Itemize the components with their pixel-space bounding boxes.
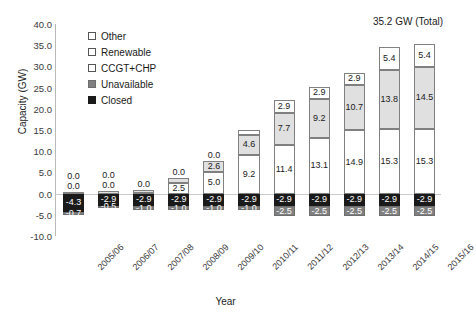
bar-segment-renewable[interactable]: 14.5 — [414, 67, 435, 128]
legend-swatch-icon — [88, 48, 96, 56]
bar-segment-unavailable[interactable]: -2.5 — [414, 206, 435, 217]
bar-segment-value: -0.7 — [66, 209, 82, 218]
bar-segment-renewable[interactable]: 13.8 — [379, 70, 400, 129]
bar-segment-value: -0.5 — [101, 202, 117, 211]
bar-segment-ccgt-chp[interactable]: 2.5 — [168, 183, 189, 194]
bar-segment-value: -2.5 — [276, 207, 292, 216]
bar-segment-ccgt-chp[interactable]: 9.2 — [238, 155, 259, 194]
bar-segment-value-outside: 0.0 — [63, 171, 84, 181]
bar-segment-other[interactable]: 5.4 — [379, 47, 400, 70]
bar-group[interactable]: 5.02.60.0-2.9-1.0 — [203, 24, 224, 236]
y-tick-label: -10.0 — [18, 231, 52, 242]
x-tick-label: 2006/07 — [130, 242, 160, 272]
bar-segment-unavailable[interactable]: -2.5 — [274, 206, 295, 217]
bar-segment-unavailable[interactable]: -2.5 — [379, 206, 400, 217]
bar-segment-unavailable[interactable]: -0.5 — [98, 206, 119, 208]
y-tick-label: 15.0 — [18, 125, 52, 136]
bar-group[interactable]: 15.313.85.4-2.9-2.5 — [379, 24, 400, 236]
bar-segment-value: 9.2 — [243, 170, 256, 179]
bar-segment-unavailable[interactable]: -1.0 — [133, 206, 154, 210]
bar-segment-value: 10.7 — [345, 103, 363, 112]
x-tick-label: 2008/09 — [200, 242, 230, 272]
legend-swatch-icon — [88, 80, 96, 88]
bar-segment-value: -2.9 — [347, 195, 363, 204]
legend-item-closed[interactable]: Closed — [88, 92, 156, 108]
legend-swatch-icon — [88, 64, 96, 72]
bar-segment-value: -2.5 — [382, 207, 398, 216]
bar-segment-unavailable[interactable]: -1.0 — [203, 206, 224, 210]
bar-segment-renewable[interactable]: 9.2 — [309, 99, 330, 138]
y-tick-label: 10.0 — [18, 146, 52, 157]
bar-segment-value: 14.5 — [416, 93, 434, 102]
bar-segment-value: -1.0 — [171, 204, 187, 213]
bar-segment-other[interactable]: 2.9 — [309, 87, 330, 99]
bar-segment-unavailable[interactable]: -0.7 — [63, 212, 84, 215]
bar-segment-value: -2.5 — [417, 207, 433, 216]
bar-segment-other[interactable]: 5.4 — [414, 44, 435, 67]
bar-segment-value: 5.4 — [418, 51, 431, 60]
bar-segment-value: 5.0 — [208, 178, 221, 187]
bar-segment-value: -2.9 — [417, 195, 433, 204]
bar-segment-value: 2.9 — [278, 102, 291, 111]
bar-group[interactable]: 0.00.0-4.3-0.7 — [63, 24, 84, 236]
bar-segment-ccgt-chp[interactable]: 5.0 — [203, 172, 224, 193]
bar-segment-ccgt-chp[interactable]: 11.4 — [274, 145, 295, 193]
bar-segment-closed[interactable]: -2.9 — [344, 194, 365, 206]
bar-segment-closed[interactable]: -2.9 — [274, 194, 295, 206]
bar-segment-value: -2.9 — [311, 195, 327, 204]
bar-segment-value: 9.2 — [313, 114, 326, 123]
bar-segment-other[interactable]: 2.9 — [344, 73, 365, 85]
bar-segment-other[interactable] — [238, 130, 259, 135]
bar-segment-renewable[interactable]: 10.7 — [344, 85, 365, 130]
bar-segment-value: 15.3 — [381, 157, 399, 166]
x-tick-label: 2013/14 — [376, 242, 406, 272]
bar-segment-value: 13.8 — [381, 95, 399, 104]
legend-item-renewable[interactable]: Renewable — [88, 44, 156, 60]
bar-segment-value: 14.9 — [345, 158, 363, 167]
bar-segment-ccgt-chp[interactable]: 15.3 — [414, 129, 435, 194]
bar-segment-closed[interactable]: -2.9 — [414, 194, 435, 206]
bar-group[interactable]: 2.50.0-2.9-1.0 — [168, 24, 189, 236]
legend-item-label: Other — [101, 31, 126, 42]
bar-segment-unavailable[interactable]: -2.5 — [344, 206, 365, 217]
bar-segment-renewable[interactable]: 7.7 — [274, 113, 295, 146]
bar-segment-other[interactable]: 2.9 — [274, 100, 295, 112]
bar-segment-ccgt-chp[interactable]: 15.3 — [379, 129, 400, 194]
bar-segment-closed[interactable]: -2.9 — [309, 194, 330, 206]
x-tick-label: 2005/06 — [95, 242, 125, 272]
bar-segment-unavailable[interactable]: -1.0 — [168, 206, 189, 210]
legend-item-other[interactable]: Other — [88, 28, 156, 44]
bar-segment-value: -2.9 — [382, 195, 398, 204]
legend-item-unavailable[interactable]: Unavailable — [88, 76, 156, 92]
bar-segment-renewable[interactable] — [168, 178, 189, 183]
legend-item-label: Unavailable — [101, 79, 153, 90]
x-tick-label: 2009/10 — [235, 242, 265, 272]
bar-segment-closed[interactable]: -2.9 — [379, 194, 400, 206]
y-tick-label: 5.0 — [18, 167, 52, 178]
bar-segment-renewable[interactable]: 2.6 — [203, 161, 224, 172]
y-tick-label: 20.0 — [18, 103, 52, 114]
y-tick-label: 30.0 — [18, 61, 52, 72]
x-tick-label: 2015/16 — [446, 242, 476, 272]
y-tick-label: 40.0 — [18, 19, 52, 30]
bar-segment-unavailable[interactable]: -2.5 — [309, 206, 330, 217]
legend: OtherRenewableCCGT+CHPUnavailableClosed — [88, 28, 156, 108]
bar-segment-renewable[interactable]: 4.6 — [238, 135, 259, 155]
bar-segment-value: -2.9 — [276, 195, 292, 204]
bar-group[interactable]: 9.24.6-2.9-1.0 — [238, 24, 259, 236]
bar-segment-ccgt-chp[interactable]: 13.1 — [309, 138, 330, 194]
bar-group[interactable]: 14.910.72.9-2.9-2.5 — [344, 24, 365, 236]
bar-group[interactable]: 11.47.72.9-2.9-2.5 — [274, 24, 295, 236]
bar-group[interactable]: 15.314.55.4-2.9-2.5 — [414, 24, 435, 236]
total-annotation: 35.2 GW (Total) — [373, 16, 443, 27]
bar-segment-value: 5.4 — [383, 54, 396, 63]
bar-group[interactable]: 13.19.22.9-2.9-2.5 — [309, 24, 330, 236]
bar-segment-value-outside: 0.0 — [98, 170, 119, 180]
y-tick-label: 35.0 — [18, 40, 52, 51]
bar-segment-unavailable[interactable]: -1.0 — [238, 206, 259, 210]
legend-swatch-icon — [88, 32, 96, 40]
x-tick-label: 2007/08 — [165, 242, 195, 272]
legend-item-ccgt-chp[interactable]: CCGT+CHP — [88, 60, 156, 76]
bar-segment-value: 4.6 — [243, 140, 256, 149]
bar-segment-ccgt-chp[interactable]: 14.9 — [344, 130, 365, 193]
